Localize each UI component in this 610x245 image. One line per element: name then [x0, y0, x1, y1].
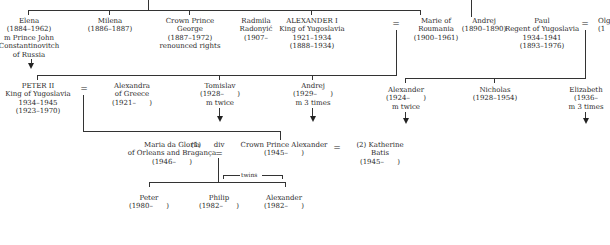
name: Milena	[88, 17, 133, 25]
person-elena: Elena (1884–1962) m Prince John Constant…	[0, 17, 59, 59]
dates: (1888–1934)	[279, 42, 344, 50]
person-paul: Paul Regent of Yugoslavia 1934–1941 (189…	[505, 17, 579, 51]
name: Philip	[199, 194, 239, 202]
marriage-symbol: =	[581, 20, 589, 29]
tick-tomislav	[219, 75, 220, 80]
marriage-symbol: =	[80, 85, 88, 94]
siblings-line-gen1	[28, 10, 421, 11]
tick-alexander1	[311, 10, 312, 15]
name: Elizabeth	[569, 86, 604, 94]
person-alexander-paul-son: Alexander (1924– ) m twice	[386, 86, 426, 111]
tick-alexander-c	[285, 182, 286, 187]
descent-arrow-icon	[583, 118, 589, 124]
name: Paul	[505, 17, 579, 25]
person-milena: Milena (1886–1887)	[88, 17, 133, 34]
person-crown-prince-alexander: Crown Prince Alexander (1945– )	[241, 141, 328, 158]
dates: (1980– )	[129, 202, 169, 210]
dates: (1893–1976)	[505, 42, 579, 50]
name: Radmila	[240, 17, 273, 25]
origin: of Orleans and Bragança	[128, 149, 216, 157]
person-olga: Olg (1	[598, 17, 610, 34]
peter-ii-children-line	[83, 131, 281, 132]
person-alexander-i: ALEXANDER I King of Yugoslavia 1921–1934…	[279, 17, 344, 51]
person-peter-ii: PETER II King of Yugoslavia 1934–1945 (1…	[5, 82, 70, 116]
name: Nicholas	[473, 86, 518, 94]
name: Elena	[0, 17, 59, 25]
paul-children-stem	[585, 30, 586, 79]
name: Alexander	[264, 194, 304, 202]
tick-nicholas	[494, 78, 495, 83]
dates: (1887–1972)	[160, 34, 221, 42]
note: m 3 times	[293, 99, 333, 107]
descent-arrow-icon	[403, 118, 409, 124]
children-stem	[218, 158, 219, 183]
dates: (1928–1954)	[473, 94, 518, 102]
twins-bracket-right-end	[282, 175, 283, 179]
note: m twice	[386, 103, 426, 111]
reign: 1934–1941	[505, 34, 579, 42]
descent-arrow-icon	[217, 116, 223, 122]
dates: (1	[598, 25, 610, 33]
surname: Radonyić	[240, 25, 273, 33]
name: Andrej	[293, 82, 333, 90]
siblings-line-gen2-right	[405, 78, 586, 79]
siblings-line-gen2-left	[37, 75, 397, 76]
dates: (1884–1962)	[0, 25, 59, 33]
twins-bracket-left	[223, 175, 240, 176]
twins-bracket-right	[262, 175, 282, 176]
note: m 3 times	[569, 103, 604, 111]
tick-george	[189, 10, 190, 15]
marriage-symbol: =	[392, 20, 400, 29]
name: Alexandra	[112, 82, 152, 90]
siblings-line-gen4	[149, 182, 286, 183]
note: of Russia	[0, 51, 59, 59]
title: King of Yugoslavia	[279, 25, 344, 33]
name: Marie of	[414, 17, 459, 25]
marriage-symbol: =	[333, 144, 341, 153]
person-katherine-batis: (2) Katherine Batis (1945– )	[356, 141, 403, 166]
surname: Batis	[356, 149, 403, 157]
note: renounced rights	[160, 42, 221, 50]
person-elizabeth: Elizabeth (1936– m 3 times	[569, 86, 604, 111]
dates: (1900–1961)	[414, 34, 459, 42]
dates: (1982– )	[199, 202, 239, 210]
descent-arrow-icon	[310, 116, 316, 122]
title: King of Yugoslavia	[5, 90, 70, 98]
name: Tomislav	[200, 82, 240, 90]
dates: (1946– )	[128, 158, 216, 166]
dates: (1890–1890)	[462, 25, 507, 33]
dates: (1886–1887)	[88, 25, 133, 33]
dates: (1923–1970)	[5, 107, 70, 115]
dates: (1945– )	[241, 149, 328, 157]
name: Peter	[129, 194, 169, 202]
title: Regent of Yugoslavia	[505, 25, 579, 33]
order: (1)	[191, 141, 201, 149]
name: ALEXANDER I	[279, 17, 344, 25]
dates: (1907–	[240, 34, 273, 42]
person-george: Crown Prince George (1887–1972) renounce…	[160, 17, 221, 51]
name: Roumania	[414, 25, 459, 33]
person-philip: Philip (1982– )	[199, 194, 239, 211]
person-tomislav: Tomislav (1928– ) m twice	[200, 82, 240, 107]
name: Alexander	[386, 86, 426, 94]
tick-alexander-p	[405, 78, 406, 83]
twins-label: twins	[241, 172, 257, 178]
alexander-i-children-stem	[396, 30, 397, 76]
name: PETER II	[5, 82, 70, 90]
dates: (1929– )	[293, 90, 333, 98]
name: George	[160, 25, 221, 33]
person-peter: Peter (1980– )	[129, 194, 169, 211]
dates: (1928– )	[200, 90, 240, 98]
person-nicholas: Nicholas (1928–1954)	[473, 86, 518, 103]
title: Crown Prince	[160, 17, 221, 25]
peter-ii-children-stem	[83, 95, 84, 132]
note: m Prince John	[0, 34, 59, 42]
person-andrej: Andrej (1929– ) m 3 times	[293, 82, 333, 107]
name: Olg	[598, 17, 610, 25]
origin: of Greece	[112, 90, 152, 98]
tick-andrej	[312, 75, 313, 80]
crown-prince-stem	[280, 131, 281, 140]
dates: (1936–	[569, 94, 604, 102]
arrow-stem	[31, 59, 32, 64]
person-radmila: Radmila Radonyić (1907–	[240, 17, 273, 42]
